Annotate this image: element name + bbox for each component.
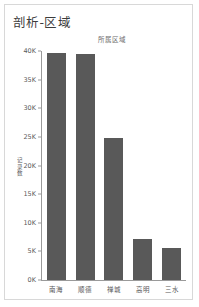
plot-area: 0K5K10K15K20K25K30K35K40K 南海顺德禅城高明三水 [41, 51, 186, 282]
bar-column[interactable] [76, 51, 95, 280]
y-axis-tick-mark [38, 251, 41, 252]
y-axis-tick-label: 0K [11, 276, 36, 284]
page-title: 剖析-区域 [13, 12, 71, 31]
x-axis-line [41, 280, 186, 281]
y-axis-tick-label: 5K [11, 247, 36, 255]
bar-column[interactable] [162, 51, 181, 280]
bar[interactable] [47, 53, 66, 280]
y-axis-tick-label: 20K [11, 162, 36, 170]
y-axis-tick-mark [38, 51, 41, 52]
x-axis-tick-label: 三水 [165, 284, 179, 294]
bar-column[interactable] [133, 51, 152, 280]
y-axis-tick-mark [38, 165, 41, 166]
y-axis-tick-mark [38, 79, 41, 80]
y-axis-tick-mark [38, 194, 41, 195]
x-axis-tick-label: 高明 [136, 284, 150, 294]
bar[interactable] [76, 54, 95, 280]
y-axis-tick-label: 10K [11, 219, 36, 227]
y-axis-tick-label: 25K [11, 133, 36, 141]
y-axis-tick-mark [38, 280, 41, 281]
bar-column[interactable] [104, 51, 123, 280]
bar[interactable] [133, 239, 152, 280]
y-axis-tick-label: 40K [11, 47, 36, 55]
chart-panel: 剖析-区域 所属区域 记录数 0K5K10K15K20K25K30K35K40K… [4, 4, 193, 300]
x-axis-tick-label: 顺德 [78, 284, 92, 294]
y-axis-tick-label: 30K [11, 104, 36, 112]
y-axis-tick-label: 15K [11, 190, 36, 198]
bar[interactable] [104, 138, 123, 280]
y-axis-tick-mark [38, 108, 41, 109]
bar-column[interactable] [47, 51, 66, 280]
bar-series [42, 51, 186, 280]
bar[interactable] [162, 248, 181, 280]
chart-subtitle: 所属区域 [5, 34, 192, 44]
x-axis-tick-label: 南海 [49, 284, 63, 294]
x-axis-tick-label: 禅城 [107, 284, 121, 294]
y-axis-tick-mark [38, 136, 41, 137]
y-axis-tick-label: 35K [11, 76, 36, 84]
y-axis-tick-mark [38, 222, 41, 223]
